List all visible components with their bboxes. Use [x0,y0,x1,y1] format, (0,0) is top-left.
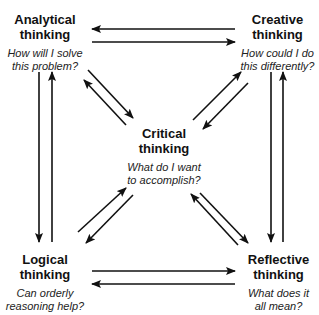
node-question: Can orderly reasoning help? [0,287,90,313]
arrow-critical-to-analytical [84,80,126,125]
question-line: to accomplish? [114,174,214,187]
node-creative: Creative thinking How could I do this di… [236,12,319,73]
node-title: Analytical thinking [0,12,90,42]
node-question: What does it all mean? [238,287,319,313]
node-title: Reflective thinking [238,252,319,282]
node-question: What do I want to accomplish? [114,161,214,187]
question-line: How will I solve [0,47,90,60]
node-title: Creative thinking [236,12,319,42]
node-title: Critical thinking [114,126,214,156]
node-reflective: Reflective thinking What does it all mea… [238,252,319,313]
node-question: How could I do this differently? [236,47,319,73]
question-line: How could I do [236,47,319,60]
question-line: What do I want [114,161,214,174]
question-line: this problem? [0,60,90,73]
title-line: thinking [0,267,90,282]
arrow-critical-to-reflective [200,193,248,243]
node-logical: Logical thinking Can orderly reasoning h… [0,252,90,313]
arrow-critical-to-creative [193,72,241,120]
title-line: Critical [114,126,214,141]
question-line: What does it [238,287,319,300]
arrow-creative-to-critical [203,83,248,129]
arrow-analytical-to-critical [88,70,133,118]
title-line: Logical [0,252,90,267]
question-line: all mean? [238,300,319,313]
title-line: thinking [114,141,214,156]
question-line: reasoning help? [0,300,90,313]
title-line: Reflective [238,252,319,267]
node-analytical: Analytical thinking How will I solve thi… [0,12,90,73]
title-line: Creative [236,12,319,27]
question-line: this differently? [236,60,319,73]
question-line: Can orderly [0,287,90,300]
node-title: Logical thinking [0,252,90,282]
title-line: thinking [0,27,90,42]
title-line: thinking [238,267,319,282]
arrow-reflective-to-critical [191,194,238,245]
node-critical: Critical thinking What do I want to acco… [114,126,214,187]
node-question: How will I solve this problem? [0,47,90,73]
title-line: Analytical [0,12,90,27]
title-line: thinking [236,27,319,42]
